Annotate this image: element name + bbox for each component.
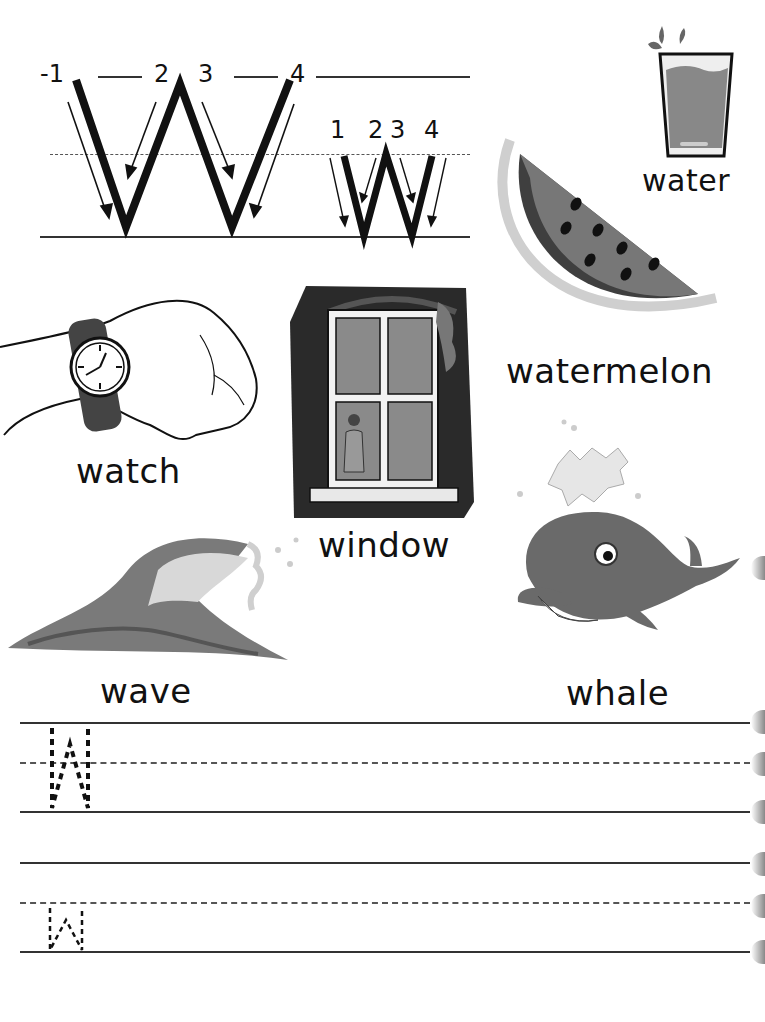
page-edge-shadow (751, 940, 765, 964)
page-edge-shadow (751, 800, 765, 824)
word-label-watermelon: watermelon (506, 354, 713, 388)
word-label-window: window (318, 528, 450, 562)
practice-baseline (20, 951, 750, 953)
page-edge-shadow (751, 710, 765, 734)
watermelon-slice-icon (488, 138, 723, 338)
word-label-watch: watch (76, 454, 181, 488)
trace-letter-W-icon (40, 722, 130, 814)
word-label-whale: whale (566, 676, 669, 710)
window-icon (288, 282, 478, 522)
wristwatch-icon (0, 295, 262, 445)
word-label-wave: wave (100, 674, 192, 708)
page-edge-shadow (751, 894, 765, 918)
whale-icon (508, 416, 756, 646)
trace-letter-w-icon (40, 902, 120, 954)
practice-mid-dashed-line (20, 902, 750, 904)
ocean-wave-icon (8, 530, 308, 664)
practice-top-line (20, 862, 750, 864)
letter-w-strokes-icon (0, 0, 480, 250)
page-edge-shadow (751, 752, 765, 776)
page-edge-shadow (751, 852, 765, 876)
